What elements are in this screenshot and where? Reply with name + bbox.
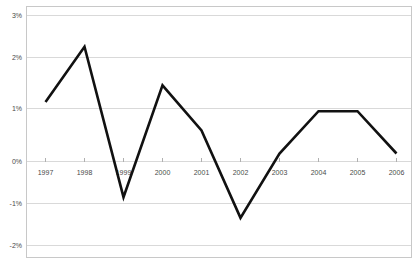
xtick-label-2005: 2005 [350, 169, 366, 176]
ytick-label-neg1pct: -1% [10, 200, 22, 207]
ytick-label-neg2pct: -2% [10, 242, 22, 249]
xtick-label-2004: 2004 [311, 169, 327, 176]
xtick-label-1997: 1997 [38, 169, 54, 176]
xtick-label-2003: 2003 [272, 169, 288, 176]
xtick-label-2002: 2002 [233, 169, 249, 176]
chart-background [0, 0, 420, 273]
ytick-label-1pct: 1% [12, 105, 22, 112]
chart-container: 3% 2% 1% 0% -1% -2% 1997 1998 1999 2000 … [0, 0, 420, 273]
ytick-label-3pct: 3% [12, 12, 22, 19]
line-chart: 3% 2% 1% 0% -1% -2% 1997 1998 1999 2000 … [0, 0, 420, 273]
xtick-label-2006: 2006 [389, 169, 405, 176]
xtick-label-1998: 1998 [77, 169, 93, 176]
xtick-label-2000: 2000 [155, 169, 171, 176]
xtick-label-2001: 2001 [194, 169, 210, 176]
ytick-label-2pct: 2% [12, 54, 22, 61]
ytick-label-0pct: 0% [12, 158, 22, 165]
